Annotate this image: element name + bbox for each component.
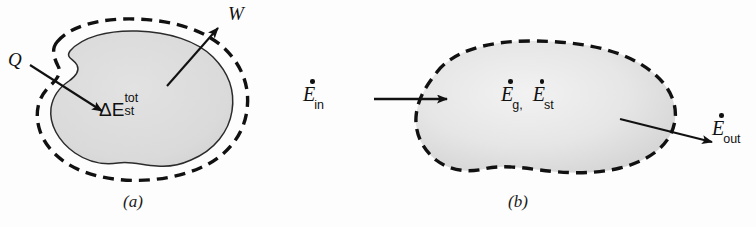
generation-storage-label: Eg, Est: [501, 84, 555, 108]
label-comma: ,: [519, 98, 522, 112]
heat-in-label: Q: [8, 50, 22, 69]
panel-b-caption: (b): [508, 193, 528, 210]
delta-E-symbol: ΔE: [99, 99, 124, 120]
storage-energy-label: ΔE tot st: [99, 96, 144, 119]
storage-subscript: st: [124, 105, 134, 118]
E-in-subscript: in: [314, 98, 324, 112]
work-out-label: W: [228, 4, 244, 23]
energy-in-label: Ein: [303, 84, 325, 108]
E-out-subscript: out: [723, 132, 740, 146]
tot-st-script-stack: tot st: [124, 96, 144, 116]
energy-balance-figure: Q W ΔE tot st (a) Ein Eg, Est Eout (b): [0, 0, 756, 227]
panel-a-caption: (a): [123, 193, 143, 210]
storage-superscript: tot: [124, 92, 138, 105]
energy-out-label: Eout: [712, 118, 742, 142]
E-st-subscript: st: [544, 98, 554, 112]
